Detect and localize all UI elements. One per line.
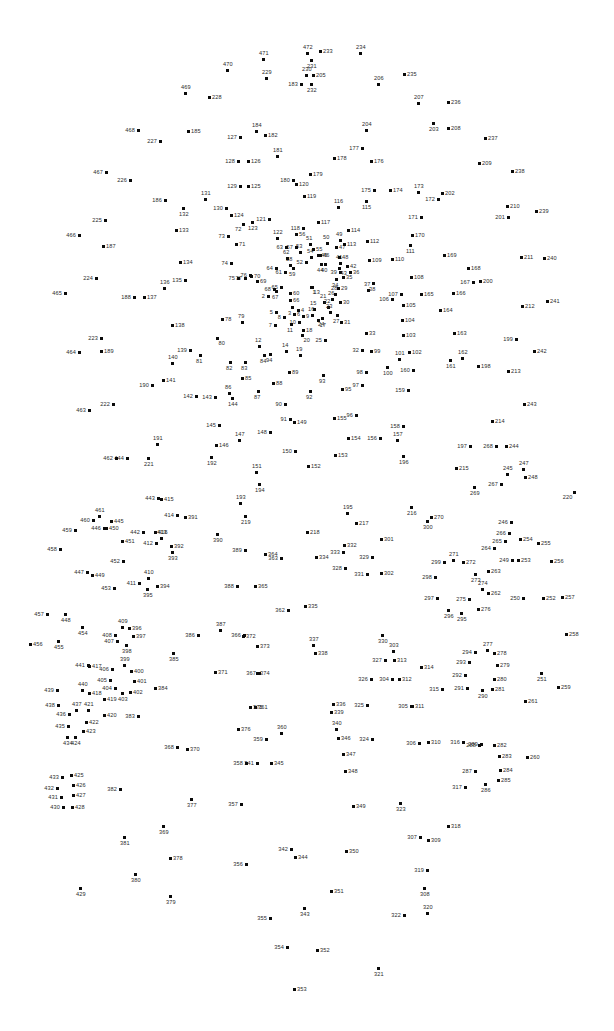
- dot-marker-icon: [524, 700, 527, 703]
- dot-marker-icon: [79, 887, 82, 890]
- dot-marker-icon: [309, 243, 312, 246]
- dot-number-label: 242: [537, 348, 547, 354]
- dot-marker-icon: [462, 561, 465, 564]
- dot-marker-icon: [473, 486, 476, 489]
- dot-number-label: 199: [503, 336, 513, 342]
- dot-marker-icon: [302, 227, 305, 230]
- dot-marker-icon: [409, 244, 412, 247]
- dot-number-label: 470: [223, 61, 233, 67]
- dot-number-label: 5: [270, 309, 273, 315]
- dot-number-label: 61: [276, 269, 282, 275]
- dot-marker-icon: [399, 802, 402, 805]
- dot-number-label: 29: [341, 285, 347, 291]
- dot-number-label: 432: [44, 785, 54, 791]
- dot-number-label: 324: [359, 736, 369, 742]
- dot-marker-icon: [295, 233, 298, 236]
- dot-number-label: 422: [89, 719, 99, 725]
- dot-marker-icon: [29, 643, 32, 646]
- dot-number-label: 325: [354, 702, 364, 708]
- dot-number-label: 434: [63, 740, 73, 746]
- dot-number-label: 419: [107, 696, 117, 702]
- dot-number-label: 332: [347, 542, 357, 548]
- dot-marker-icon: [344, 770, 347, 773]
- dot-number-label: 174: [393, 187, 403, 193]
- dot-marker-icon: [371, 738, 374, 741]
- dot-marker-icon: [229, 361, 232, 364]
- dot-number-label: 339: [334, 709, 344, 715]
- dot-number-label: 237: [488, 135, 498, 141]
- dot-marker-icon: [418, 742, 421, 745]
- dot-marker-icon: [486, 649, 489, 652]
- dot-marker-icon: [269, 917, 272, 920]
- dot-marker-icon: [349, 271, 352, 274]
- dot-number-label: 268: [483, 443, 493, 449]
- dot-number-label: 384: [158, 685, 168, 691]
- dot-marker-icon: [230, 214, 233, 217]
- dot-marker-icon: [294, 856, 297, 859]
- dot-marker-icon: [320, 263, 323, 266]
- dot-number-label: 36: [353, 269, 359, 275]
- dot-marker-icon: [299, 354, 302, 357]
- dot-number-label: 313: [397, 657, 407, 663]
- dot-number-label: 321: [374, 971, 384, 977]
- dot-marker-icon: [64, 292, 67, 295]
- dot-marker-icon: [162, 825, 165, 828]
- dot-number-label: 153: [338, 452, 348, 458]
- dot-marker-icon: [125, 644, 128, 647]
- dot-number-label: 425: [74, 772, 84, 778]
- dot-marker-icon: [61, 776, 64, 779]
- dot-marker-icon: [74, 529, 77, 532]
- dot-marker-icon: [402, 334, 405, 337]
- dot-marker-icon: [377, 83, 380, 86]
- dot-marker-icon: [359, 52, 362, 55]
- dot-number-label: 16: [308, 306, 314, 312]
- dot-marker-icon: [121, 692, 124, 695]
- dot-number-label: 19: [296, 346, 302, 352]
- dot-number-label: 216: [407, 510, 417, 516]
- dot-number-label: 151: [252, 463, 262, 469]
- dot-marker-icon: [302, 315, 305, 318]
- dot-marker-icon: [157, 497, 160, 500]
- dot-marker-icon: [236, 585, 239, 588]
- dot-marker-icon: [295, 183, 298, 186]
- dot-marker-icon: [249, 706, 252, 709]
- dot-marker-icon: [179, 261, 182, 264]
- dot-number-label: 416: [158, 529, 168, 535]
- dot-marker-icon: [398, 358, 401, 361]
- dot-marker-icon: [67, 725, 70, 728]
- dot-number-label: 387: [216, 621, 226, 627]
- dot-number-label: 159: [395, 387, 405, 393]
- dot-number-label: 466: [66, 232, 76, 238]
- dot-number-label: 218: [310, 529, 320, 535]
- dot-number-label: 211: [524, 254, 533, 260]
- dot-marker-icon: [268, 218, 271, 221]
- dot-marker-icon: [462, 741, 465, 744]
- dot-marker-icon: [344, 567, 347, 570]
- dot-number-label: 357: [228, 801, 238, 807]
- dot-marker-icon: [147, 457, 150, 460]
- dot-marker-icon: [346, 265, 349, 268]
- dot-number-label: 389: [232, 547, 242, 553]
- dot-marker-icon: [508, 532, 511, 535]
- dot-number-label: 271: [449, 551, 459, 557]
- dot-marker-icon: [100, 337, 103, 340]
- dot-number-label: 264: [481, 545, 491, 551]
- dot-marker-icon: [262, 58, 265, 61]
- dot-marker-icon: [186, 748, 189, 751]
- dot-marker-icon: [156, 443, 159, 446]
- dot-number-label: 232: [307, 87, 317, 93]
- dot-number-label: 386: [185, 632, 195, 638]
- dot-number-label: 158: [390, 423, 400, 429]
- dot-number-label: 440: [78, 681, 88, 687]
- dot-marker-icon: [477, 608, 480, 611]
- dot-marker-icon: [468, 661, 471, 664]
- dot-marker-icon: [511, 559, 514, 562]
- dot-number-label: 381: [120, 840, 130, 846]
- dot-number-label: 464: [66, 349, 76, 355]
- dot-marker-icon: [142, 531, 145, 534]
- dot-marker-icon: [147, 577, 150, 580]
- dot-marker-icon: [210, 456, 213, 459]
- dot-number-label: 438: [45, 702, 55, 708]
- dot-marker-icon: [128, 627, 131, 630]
- dot-marker-icon: [452, 292, 455, 295]
